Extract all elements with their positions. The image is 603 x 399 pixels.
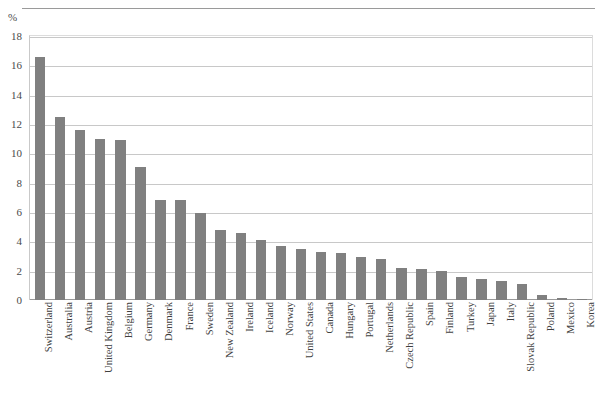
bar-slot <box>552 36 572 300</box>
bar-series <box>30 36 592 300</box>
bar[interactable] <box>276 246 286 300</box>
bar-chart: % 024681012141618 SwitzerlandAustraliaAu… <box>0 0 603 399</box>
bar-slot <box>211 36 231 300</box>
x-axis-tick: Ireland <box>245 302 255 332</box>
header-divider <box>22 8 595 9</box>
bar[interactable] <box>55 117 65 300</box>
x-axis-tick: Italy <box>506 302 516 321</box>
x-axis-tick: Slovak Republic <box>526 302 536 372</box>
bar[interactable] <box>496 281 506 300</box>
bar-slot <box>50 36 70 300</box>
bar-slot <box>492 36 512 300</box>
bar[interactable] <box>376 259 386 300</box>
y-axis-tick: 16 <box>0 60 22 71</box>
x-axis-tick: Hungary <box>345 302 355 339</box>
bar-slot <box>30 36 50 300</box>
bar-slot <box>311 36 331 300</box>
bar[interactable] <box>416 269 426 300</box>
bar[interactable] <box>175 200 185 300</box>
bar[interactable] <box>316 252 326 300</box>
x-axis-tick: Poland <box>546 302 556 331</box>
bar[interactable] <box>436 271 446 300</box>
y-axis-tick: 4 <box>0 236 22 247</box>
x-axis-tick: France <box>185 302 195 331</box>
bar-slot <box>231 36 251 300</box>
y-axis-tick: 8 <box>0 178 22 189</box>
bar-slot <box>572 36 592 300</box>
bar[interactable] <box>456 277 466 300</box>
bar[interactable] <box>95 139 105 300</box>
bar[interactable] <box>115 140 125 300</box>
bar-slot <box>171 36 191 300</box>
x-axis-tick: Japan <box>486 302 496 326</box>
x-axis-tick: Netherlands <box>385 302 395 353</box>
x-axis-tick: Germany <box>144 302 154 341</box>
bar-slot <box>532 36 552 300</box>
x-axis-tick: Belgium <box>124 302 134 338</box>
y-axis-tick: 10 <box>0 148 22 159</box>
bar-slot <box>411 36 431 300</box>
x-axis-tick: Norway <box>285 302 295 336</box>
bar[interactable] <box>336 253 346 300</box>
x-axis-tick: New Zealand <box>225 302 235 358</box>
y-axis-tick: 12 <box>0 119 22 130</box>
bar[interactable] <box>75 130 85 300</box>
x-axis-tick: Denmark <box>164 302 174 341</box>
bar[interactable] <box>537 295 547 300</box>
y-axis-tick: 6 <box>0 207 22 218</box>
x-axis-tick: Austria <box>84 302 94 333</box>
bar-slot <box>391 36 411 300</box>
bar-slot <box>271 36 291 300</box>
bar[interactable] <box>195 213 205 300</box>
bar-slot <box>191 36 211 300</box>
y-axis-tick: 14 <box>0 90 22 101</box>
bar[interactable] <box>577 299 587 300</box>
x-axis-tick: Portugal <box>365 302 375 338</box>
x-axis-tick: United Kingdom <box>104 302 114 373</box>
x-axis-tick: Spain <box>425 302 435 326</box>
y-axis-tick: 18 <box>0 31 22 42</box>
bar[interactable] <box>557 298 567 300</box>
bar-slot <box>110 36 130 300</box>
bar-slot <box>371 36 391 300</box>
y-axis-tick: 2 <box>0 266 22 277</box>
bar[interactable] <box>236 233 246 300</box>
bar-slot <box>512 36 532 300</box>
bar[interactable] <box>396 268 406 300</box>
x-axis-tick: Sweden <box>205 302 215 335</box>
bar-slot <box>150 36 170 300</box>
x-axis-tick: Canada <box>325 302 335 334</box>
y-axis-tick-labels: 024681012141618 <box>0 0 29 300</box>
x-axis-tick-labels: SwitzerlandAustraliaAustriaUnited Kingdo… <box>30 302 592 398</box>
bar[interactable] <box>215 230 225 300</box>
bar[interactable] <box>135 167 145 300</box>
x-axis-tick: Finland <box>445 302 455 334</box>
bar-slot <box>452 36 472 300</box>
x-axis-tick: Czech Republic <box>405 302 415 369</box>
x-axis-tick: United States <box>305 302 315 358</box>
bar[interactable] <box>476 279 486 300</box>
x-axis-tick: Turkey <box>466 302 476 332</box>
bar-slot <box>431 36 451 300</box>
bar[interactable] <box>356 257 366 300</box>
x-axis-tick: Switzerland <box>44 302 54 352</box>
bar[interactable] <box>517 284 527 300</box>
bar[interactable] <box>35 57 45 300</box>
bar-slot <box>472 36 492 300</box>
x-axis-tick: Mexico <box>566 302 576 334</box>
y-axis-tick: 0 <box>0 295 22 306</box>
bar-slot <box>291 36 311 300</box>
bar-slot <box>331 36 351 300</box>
bar[interactable] <box>155 200 165 300</box>
bar[interactable] <box>296 249 306 300</box>
x-axis-tick: Korea <box>586 302 596 328</box>
bar-slot <box>251 36 271 300</box>
bar-slot <box>351 36 371 300</box>
bar[interactable] <box>256 240 266 300</box>
bar-slot <box>90 36 110 300</box>
x-axis-tick: Iceland <box>265 302 275 333</box>
bar-slot <box>130 36 150 300</box>
bar-slot <box>70 36 90 300</box>
x-axis-tick: Australia <box>64 302 74 341</box>
